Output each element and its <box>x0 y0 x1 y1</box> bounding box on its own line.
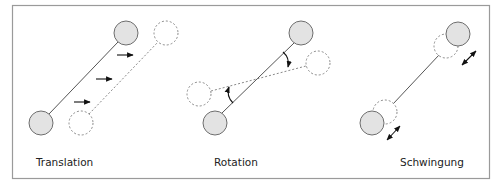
motion-types-diagram: Translation Rotation Schwingung <box>0 0 500 188</box>
ball-solid <box>360 111 384 135</box>
ball-solid <box>289 21 313 45</box>
ball-solid <box>446 22 470 46</box>
ball-solid <box>29 111 53 135</box>
label-schwingung: Schwingung <box>400 156 464 168</box>
ball-solid <box>203 111 227 135</box>
ball-solid <box>114 21 138 45</box>
figure-frame <box>13 6 490 179</box>
label-rotation: Rotation <box>214 156 258 168</box>
label-translation: Translation <box>35 156 93 168</box>
